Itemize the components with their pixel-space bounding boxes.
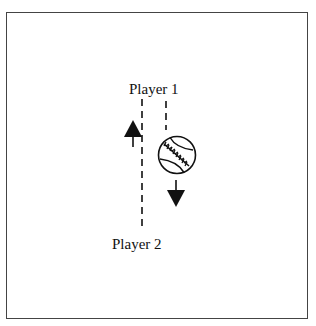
down-arrow-icon (167, 180, 185, 207)
baseball-icon (159, 137, 196, 174)
up-arrow-icon (124, 120, 142, 147)
diagram-canvas (0, 0, 316, 326)
